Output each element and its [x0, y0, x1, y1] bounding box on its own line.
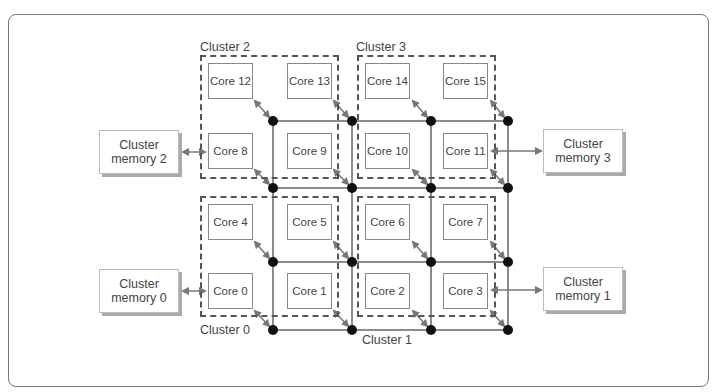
core-8: Core 8	[208, 133, 253, 169]
core-3: Core 3	[443, 273, 488, 309]
core-4: Core 4	[208, 204, 253, 240]
memory-1-line2: memory 1	[555, 289, 611, 303]
cluster-memory-3: Cluster memory 3	[543, 129, 623, 173]
cluster-memory-1: Cluster memory 1	[543, 267, 623, 311]
cluster-memory-0: Cluster memory 0	[99, 269, 179, 313]
core-13: Core 13	[287, 63, 332, 99]
memory-3-line1: Cluster	[563, 137, 603, 151]
core-2: Core 2	[365, 273, 410, 309]
memory-0-line2: memory 0	[111, 291, 167, 305]
memory-0-line1: Cluster	[119, 277, 159, 291]
core-10: Core 10	[365, 133, 410, 169]
cluster-3-label: Cluster 3	[356, 40, 406, 54]
memory-3-line2: memory 3	[555, 151, 611, 165]
cluster-1-label: Cluster 1	[362, 333, 412, 347]
memory-2-line1: Cluster	[119, 138, 159, 152]
core-5: Core 5	[287, 204, 332, 240]
cluster-memory-2: Cluster memory 2	[99, 130, 179, 174]
core-7: Core 7	[443, 204, 488, 240]
core-12: Core 12	[208, 63, 253, 99]
cluster-2-label: Cluster 2	[200, 40, 250, 54]
core-11: Core 11	[443, 133, 488, 169]
core-9: Core 9	[287, 133, 332, 169]
core-0: Core 0	[208, 273, 253, 309]
memory-1-line1: Cluster	[563, 275, 603, 289]
core-1: Core 1	[287, 273, 332, 309]
cluster-0-label: Cluster 0	[200, 323, 250, 337]
core-6: Core 6	[365, 204, 410, 240]
core-14: Core 14	[365, 63, 410, 99]
memory-2-line2: memory 2	[111, 152, 167, 166]
core-15: Core 15	[443, 63, 488, 99]
